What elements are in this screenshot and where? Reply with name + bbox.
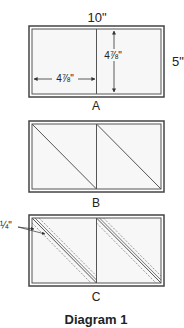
panel-a: 10" 4⅞" 4⅞" 5" A	[29, 10, 184, 113]
inner-height-label: 4⅞"	[104, 50, 122, 61]
panel-c-label: C	[92, 290, 101, 304]
panel-b-label: B	[92, 196, 100, 210]
panel-a-label: A	[92, 99, 100, 113]
height-dimension-label: 5"	[172, 54, 184, 69]
seam-allowance-label: ¼"	[0, 220, 12, 231]
width-dimension-label: 10"	[87, 10, 106, 25]
panel-b: B	[29, 121, 164, 210]
diagram-title: Diagram 1	[65, 312, 128, 327]
panel-c: ¼" C	[0, 215, 164, 304]
diagram-canvas: 10" 4⅞" 4⅞" 5" A B ¼" C	[0, 0, 184, 328]
inner-width-label: 4⅞"	[56, 73, 74, 84]
